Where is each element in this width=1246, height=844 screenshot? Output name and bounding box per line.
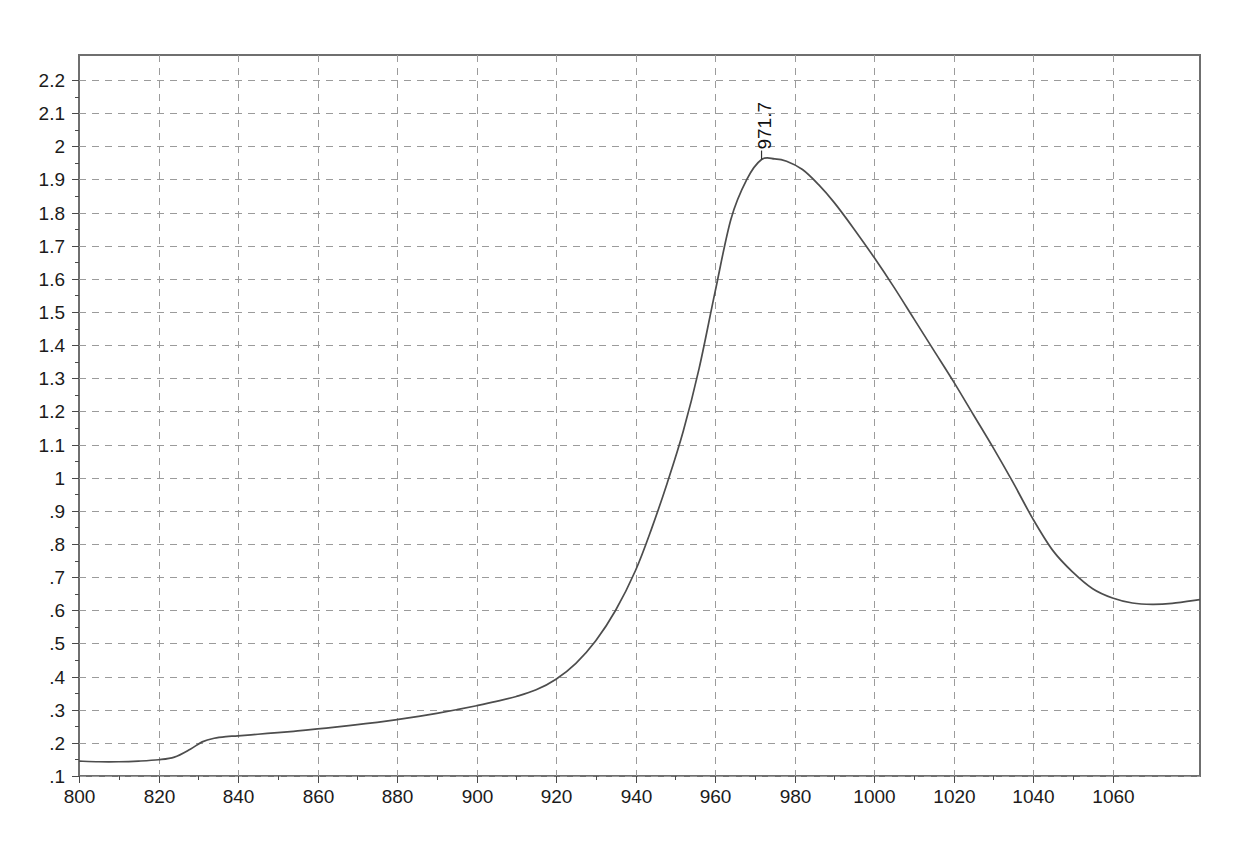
y-tick-label: 1.6 xyxy=(39,269,65,290)
y-tick-label: .6 xyxy=(49,600,65,621)
x-tick-label: 980 xyxy=(780,786,812,807)
y-tick-label: .7 xyxy=(49,567,65,588)
y-tick-label: 1.3 xyxy=(39,368,65,389)
y-tick-label: 2.1 xyxy=(39,103,65,124)
y-tick-label: .4 xyxy=(49,667,65,688)
x-tick-label: 800 xyxy=(64,786,96,807)
x-tick-label: 1000 xyxy=(853,786,895,807)
x-tick-label: 1040 xyxy=(1012,786,1054,807)
x-tick-label: 840 xyxy=(223,786,255,807)
y-tick-label: 1.7 xyxy=(39,236,65,257)
peak-label-971-7: 971.7 xyxy=(754,102,775,150)
spectrum-chart: 2.22.121.91.81.71.61.51.41.31.21.11.9.8.… xyxy=(0,0,1246,844)
y-tick-label: .3 xyxy=(49,700,65,721)
y-tick-label: 1 xyxy=(54,468,65,489)
y-tick-label: 1.5 xyxy=(39,302,65,323)
y-tick-label: 2 xyxy=(54,136,65,157)
x-tick-label: 860 xyxy=(303,786,335,807)
x-tick-label: 1060 xyxy=(1092,786,1134,807)
x-tick-label: 880 xyxy=(382,786,414,807)
y-tick-label: .2 xyxy=(49,733,65,754)
chart-container: 2.22.121.91.81.71.61.51.41.31.21.11.9.8.… xyxy=(0,0,1246,844)
x-tick-label: 820 xyxy=(144,786,176,807)
y-tick-label: 1.9 xyxy=(39,169,65,190)
annotation-text: 971.7 xyxy=(754,102,775,150)
x-tick-label: 900 xyxy=(462,786,494,807)
x-tick-label: 920 xyxy=(541,786,573,807)
y-tick-label: .1 xyxy=(49,766,65,787)
y-tick-label: .8 xyxy=(49,534,65,555)
y-tick-label: 1.1 xyxy=(39,435,65,456)
y-tick-label: 1.4 xyxy=(39,335,66,356)
x-tick-label: 940 xyxy=(621,786,653,807)
x-tick-label: 960 xyxy=(700,786,732,807)
y-tick-label: 2.2 xyxy=(39,70,65,91)
y-tick-label: .9 xyxy=(49,501,65,522)
y-tick-label: 1.8 xyxy=(39,203,65,224)
y-tick-label: .5 xyxy=(49,633,65,654)
y-tick-label: 1.2 xyxy=(39,401,65,422)
plot-area-frame xyxy=(79,55,1200,776)
x-tick-label: 1020 xyxy=(933,786,975,807)
